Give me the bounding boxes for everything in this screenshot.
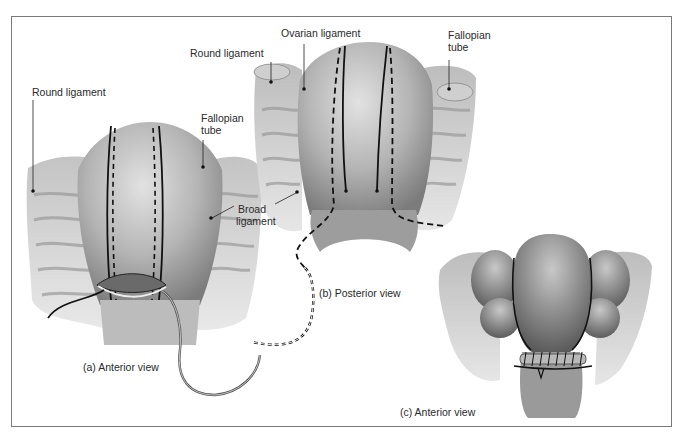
panel-c-uterus-repaired (439, 234, 652, 418)
caption-a: (a) Anterior view (83, 361, 159, 373)
label-a-fallopian-tube: Fallopian tube (201, 112, 244, 136)
caption-b: (b) Posterior view (319, 287, 401, 299)
label-b-round-ligament: Round ligament (190, 47, 264, 59)
label-b-fallopian-tube: Fallopian tube (448, 29, 491, 53)
label-a-broad-ligament: Broad ligament (236, 203, 276, 227)
panel-a-uterus-anterior (27, 100, 262, 395)
caption-c: (c) Anterior view (400, 406, 475, 418)
label-b-ovarian-ligament: Ovarian ligament (281, 27, 360, 39)
label-a-round-ligament: Round ligament (32, 86, 106, 98)
uterus-illustrations (0, 0, 682, 442)
